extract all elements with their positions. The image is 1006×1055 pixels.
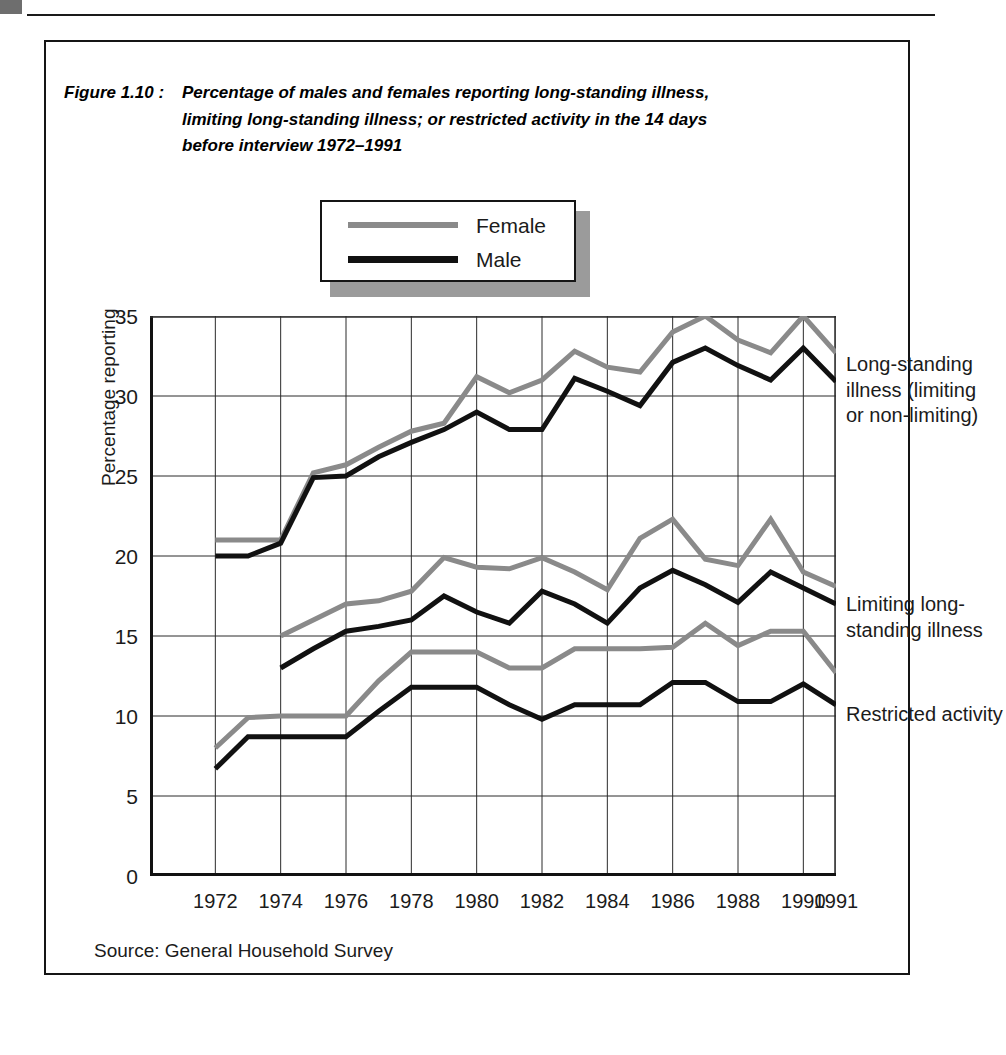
figure-title-line-3: before interview 1972–1991 [182,133,894,160]
x-tick-label: 1976 [324,890,369,913]
legend-item-female: Female [322,212,574,238]
legend-swatch-female-icon [348,222,458,228]
annotation-long-standing-illness: Long-standing illness (limiting or non-l… [846,352,996,429]
x-axis-tick-labels: 1972197419761978198019821984198619881990… [150,876,836,916]
series-line-male [215,682,836,768]
x-tick-label: 1978 [389,890,434,913]
x-tick-label: 1986 [650,890,695,913]
y-tick-label: 20 [92,546,138,567]
legend-item-male: Male [322,246,574,272]
series-line-female [281,519,836,636]
x-tick-label: 1972 [193,890,238,913]
figure-caption: Figure 1.10 : Percentage of males and fe… [64,80,894,160]
y-tick-label: 10 [92,706,138,727]
x-tick-label: 1984 [585,890,630,913]
annotation-lim-line-1: Limiting long- [846,593,965,615]
annotation-ls-line-3: or non-limiting) [846,404,978,426]
y-tick-label: 25 [92,466,138,487]
x-tick-label: 1980 [454,890,499,913]
series-line-female [215,623,836,748]
figure-number: Figure 1.10 : [64,80,182,107]
annotation-ls-line-1: Long-standing [846,353,973,375]
figure-title: Percentage of males and females reportin… [182,80,894,160]
legend-box: Female Male [320,200,576,282]
y-tick-label: 5 [92,786,138,807]
x-tick-label: 1974 [258,890,303,913]
series-line-male [281,570,836,668]
y-tick-label: 35 [92,306,138,327]
y-axis-tick-labels: 05101520253035 [92,316,138,876]
y-tick-label: 30 [92,386,138,407]
page-header-rule [27,14,935,16]
annotation-limiting-long-standing-illness: Limiting long- standing illness [846,592,996,643]
y-tick-label: 0 [92,866,138,887]
series-line-male [215,348,836,556]
annotation-ls-line-2: illness (limiting [846,379,976,401]
x-tick-label: 1982 [520,890,565,913]
legend-label-male: Male [476,249,522,270]
figure-container: Figure 1.10 : Percentage of males and fe… [44,40,910,975]
scan-artifact-corner [0,0,22,14]
x-tick-label: 1988 [716,890,761,913]
line-chart-svg [150,316,836,876]
y-tick-label: 15 [92,626,138,647]
legend-swatch-male-icon [348,256,458,263]
source-note: Source: General Household Survey [94,940,393,962]
legend-label-female: Female [476,215,546,236]
chart-legend: Female Male [320,200,590,297]
annotation-lim-line-2: standing illness [846,619,983,641]
annotation-restricted-activity: Restricted activity [846,702,1006,728]
plot-area: Percentage reporting 05101520253035 1972… [150,316,836,876]
annotation-ra-line-1: Restricted activity [846,703,1003,725]
x-tick-label: 1991 [814,890,859,913]
figure-title-line-1: Percentage of males and females reportin… [182,80,894,107]
figure-title-line-2: limiting long-standing illness; or restr… [182,107,894,134]
